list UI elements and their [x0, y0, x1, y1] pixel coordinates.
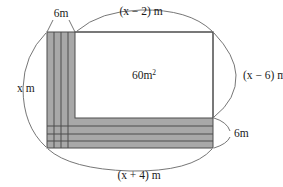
label-outer-width: (x + 4) m	[117, 169, 160, 182]
label-inner-area-exponent: 2	[152, 68, 156, 77]
top-6m-leader-left	[47, 20, 53, 32]
label-inner-width: (x − 2) m	[119, 5, 162, 18]
right-brace-inner-height	[214, 33, 236, 117]
geometry-diagram: 6m (x − 2) m (x − 6) m x m (x + 4) m 6m …	[0, 0, 283, 187]
label-inner-height: (x − 6) m	[243, 69, 283, 82]
label-outer-height: x m	[17, 82, 35, 94]
diagram-canvas: 6m (x − 2) m (x − 6) m x m (x + 4) m 6m …	[0, 0, 283, 187]
bottom-brace-outer-width	[48, 149, 212, 171]
top-6m-leader-right	[69, 20, 75, 32]
bottom-right-6m-leader-lower	[214, 137, 230, 148]
label-bottom-band-height: 6m	[234, 127, 249, 139]
bottom-right-6m-leader	[214, 118, 230, 131]
label-inner-area-value: 60m	[132, 69, 153, 81]
label-top-band-width: 6m	[54, 7, 69, 19]
top-6m-leaders	[47, 20, 75, 32]
bottom-shaded-band	[47, 118, 213, 148]
